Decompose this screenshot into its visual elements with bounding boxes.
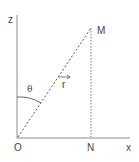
point-n-label: N — [87, 142, 94, 153]
x-axis-label: x — [126, 142, 131, 153]
diagram-canvas: z x O N M θ r — [0, 0, 139, 162]
origin-label: O — [14, 142, 22, 153]
point-m-label: M — [97, 25, 105, 36]
theta-arc — [17, 97, 41, 103]
vector-r-label: r — [62, 79, 66, 90]
z-axis-label: z — [8, 14, 13, 25]
theta-label: θ — [27, 84, 32, 94]
position-vector-line — [18, 28, 91, 137]
